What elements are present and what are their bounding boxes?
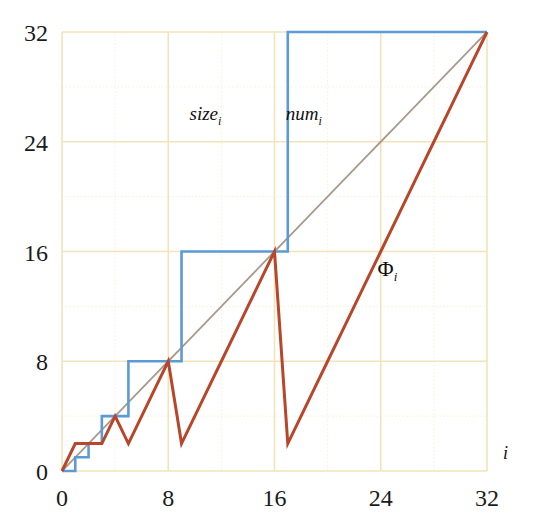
y-tick-label: 16 bbox=[24, 240, 48, 266]
x-tick-label: 32 bbox=[475, 485, 499, 511]
series-label-text: size bbox=[190, 103, 219, 124]
amortized-analysis-chart: 08162432 08162432 sizeinumiΦi i bbox=[0, 0, 538, 527]
y-tick-label: 8 bbox=[36, 349, 48, 375]
axis-label-x-axis-name: i bbox=[503, 443, 508, 463]
y-tick-label: 32 bbox=[24, 20, 48, 46]
x-tick-label: 0 bbox=[56, 485, 68, 511]
x-tick-label: 8 bbox=[162, 485, 174, 511]
x-tick-label: 16 bbox=[263, 485, 287, 511]
series-label-text: Φ bbox=[378, 256, 394, 281]
axis-name-labels: i bbox=[503, 443, 508, 463]
y-tick-label: 0 bbox=[36, 459, 48, 485]
chart-container: 08162432 08162432 sizeinumiΦi i bbox=[0, 0, 538, 527]
y-tick-label: 24 bbox=[24, 130, 48, 156]
series-label-text: num bbox=[286, 103, 319, 124]
x-tick-label: 24 bbox=[369, 485, 393, 511]
series-label-subscript: i bbox=[394, 269, 398, 284]
series-label-subscript: i bbox=[218, 114, 221, 128]
series-label-subscript: i bbox=[318, 114, 321, 128]
